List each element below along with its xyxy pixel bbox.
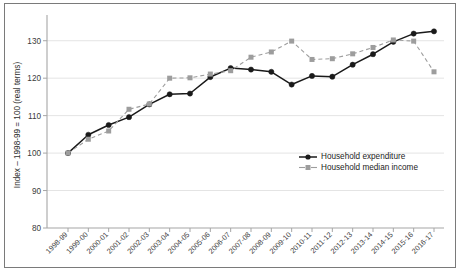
data-point xyxy=(432,69,437,74)
y-axis-title: Index – 1998-99 = 100 (real terms) xyxy=(13,62,22,189)
data-point xyxy=(269,49,274,54)
x-tick-label: 2010-11 xyxy=(288,230,313,255)
data-point xyxy=(371,45,376,50)
data-point xyxy=(350,51,355,56)
y-tick-label: 80 xyxy=(32,224,42,233)
data-point xyxy=(248,67,253,72)
data-point xyxy=(147,102,152,107)
data-point xyxy=(167,76,172,81)
data-point xyxy=(208,72,213,77)
x-tick-label: 2016-17 xyxy=(410,230,436,256)
legend-label-1: Household median income xyxy=(321,163,418,172)
y-tick-label: 100 xyxy=(27,149,41,158)
data-point xyxy=(106,128,111,133)
data-point xyxy=(350,62,355,67)
data-point xyxy=(249,55,254,60)
y-tick-label: 130 xyxy=(27,37,41,46)
y-tick-label: 120 xyxy=(27,74,41,83)
data-point xyxy=(187,91,192,96)
data-point xyxy=(289,82,294,87)
data-point xyxy=(310,57,315,62)
data-point xyxy=(269,69,274,74)
data-point xyxy=(86,137,91,142)
line-chart: 80901001101201301998-991999-002000-01200… xyxy=(0,0,460,274)
data-point xyxy=(330,56,335,61)
data-point xyxy=(127,107,132,112)
data-point xyxy=(188,75,193,80)
series-line-0 xyxy=(68,31,434,153)
data-point xyxy=(106,122,111,127)
data-point xyxy=(289,39,294,44)
y-tick-label: 90 xyxy=(32,187,42,196)
y-tick-label: 110 xyxy=(28,112,41,121)
legend-marker-0 xyxy=(305,154,310,159)
chart-figure: 80901001101201301998-991999-002000-01200… xyxy=(0,0,460,274)
data-point xyxy=(431,29,436,34)
data-point xyxy=(66,151,71,156)
legend-label-0: Household expenditure xyxy=(321,152,406,161)
data-point xyxy=(370,52,375,57)
data-point xyxy=(309,73,314,78)
data-point xyxy=(167,92,172,97)
x-tick-label: 2009-10 xyxy=(268,230,294,256)
data-point xyxy=(126,115,131,120)
data-point xyxy=(228,68,233,73)
data-point xyxy=(86,132,91,137)
legend-marker-1 xyxy=(306,165,311,170)
data-point xyxy=(411,39,416,44)
data-point xyxy=(391,37,396,42)
data-point xyxy=(330,74,335,79)
data-point xyxy=(411,31,416,36)
